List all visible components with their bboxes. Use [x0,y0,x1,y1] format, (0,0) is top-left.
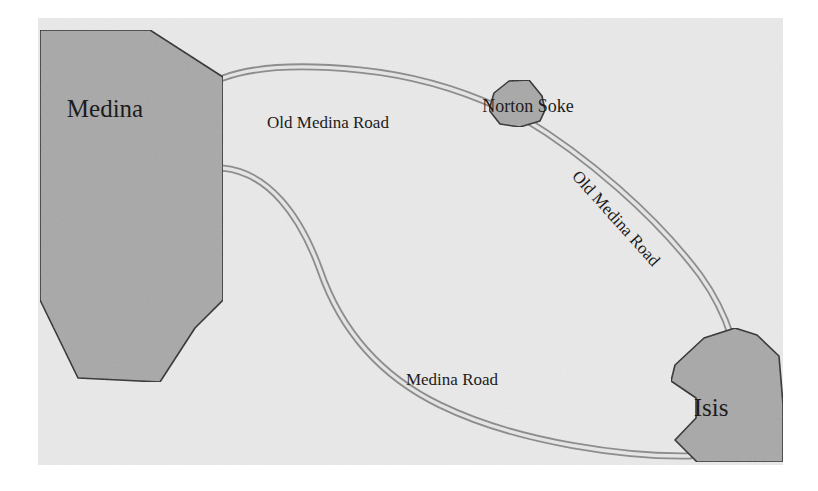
road-label-old-medina-road-north: Old Medina Road [267,113,389,132]
region-label-norton-soke: Norton Soke [482,96,574,116]
map-canvas: Medina Norton Soke Isis Old Medina Road … [0,0,818,491]
map-figure: Medina Norton Soke Isis Old Medina Road … [0,0,818,491]
road-label-medina-road-south: Medina Road [406,370,499,389]
region-label-medina: Medina [67,95,143,122]
region-label-isis: Isis [694,394,729,421]
